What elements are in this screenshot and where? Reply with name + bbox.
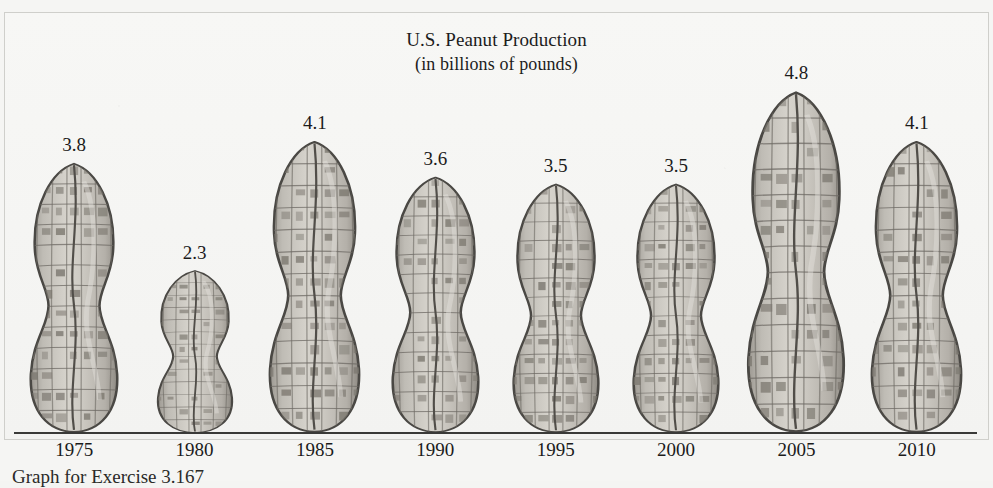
bar-slot: 4.1 xyxy=(255,2,375,434)
baseline-axis xyxy=(14,432,977,434)
bar-slot: 3.5 xyxy=(496,2,616,434)
bar-slot: 3.6 xyxy=(375,2,495,434)
bar-slot: 3.5 xyxy=(616,2,736,434)
peanut-pictograph xyxy=(742,89,850,434)
x-axis-tick-label: 1990 xyxy=(375,437,495,463)
bar-slot: 4.8 xyxy=(736,2,856,434)
peanut-pictograph xyxy=(508,182,604,434)
x-axis-labels: 19751980198519901995200020052010 xyxy=(14,437,977,463)
bar-value-label: 4.8 xyxy=(785,63,809,82)
x-axis-tick-label: 2005 xyxy=(736,437,856,463)
bar-value-label: 3.8 xyxy=(62,135,86,154)
x-axis-tick-label: 1975 xyxy=(14,437,134,463)
bar-slot: 3.8 xyxy=(14,2,134,434)
x-axis-tick-label: 1980 xyxy=(134,437,254,463)
plot-area: 3.82.34.13.63.53.54.84.1 xyxy=(0,0,993,434)
x-axis-tick-label: 1995 xyxy=(496,437,616,463)
bar-value-label: 4.1 xyxy=(303,113,327,132)
peanut-pictograph xyxy=(264,139,365,434)
bar-slot: 4.1 xyxy=(857,2,977,434)
bar-slot: 2.3 xyxy=(134,2,254,434)
bar-value-label: 3.5 xyxy=(664,156,688,175)
peanut-pictograph xyxy=(866,139,967,434)
bar-value-label: 4.1 xyxy=(905,113,929,132)
bar-value-label: 3.5 xyxy=(544,156,568,175)
peanut-pictograph xyxy=(153,269,237,434)
peanut-pictograph xyxy=(25,161,123,434)
peanut-pictograph xyxy=(387,175,484,434)
x-axis-tick-label: 1985 xyxy=(255,437,375,463)
figure-caption: Graph for Exercise 3.167 xyxy=(12,466,204,488)
x-axis-tick-label: 2000 xyxy=(616,437,736,463)
peanut-pictograph xyxy=(628,182,724,434)
bars-container: 3.82.34.13.63.53.54.84.1 xyxy=(14,0,977,434)
x-axis-tick-label: 2010 xyxy=(857,437,977,463)
bar-value-label: 3.6 xyxy=(423,149,447,168)
bar-value-label: 2.3 xyxy=(183,243,207,262)
